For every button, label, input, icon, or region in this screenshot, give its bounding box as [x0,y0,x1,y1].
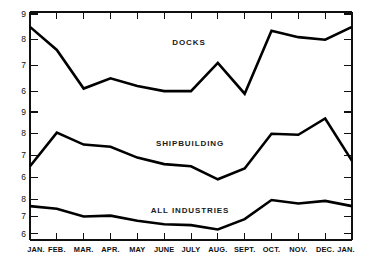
x-tick-label: JAN. [337,245,355,254]
x-tick-label: AUG. [208,245,227,254]
series-line-shipbuilding [30,119,352,180]
x-tick-label: JAN. [27,245,45,254]
series-line-docks [30,27,352,94]
series-label-all-industries: ALL INDUSTRIES [151,206,230,215]
chart-canvas: 98769876876JAN.FEB.MAR.APR.MAYJUNEJULYAU… [0,0,367,272]
y-tick-label: 6 [21,86,26,96]
x-tick-label: DEC. [316,245,334,254]
series-label-docks: DOCKS [172,38,205,47]
y-tick-label: 9 [21,107,26,117]
x-tick-label: OCT. [263,245,281,254]
x-tick-label: APR. [101,245,119,254]
y-tick-label: 8 [21,194,26,204]
y-tick-label: 6 [21,229,26,239]
line-chart-figure: 98769876876JAN.FEB.MAR.APR.MAYJUNEJULYAU… [0,0,367,272]
y-tick-label: 6 [21,172,26,182]
series-group [30,27,352,230]
x-tick-label: FEB. [48,245,66,254]
series-label-shipbuilding: SHIPBUILDING [156,139,224,148]
x-tick-label: SEPT. [234,245,256,254]
y-tick-label: 7 [21,150,26,160]
x-tick-label: JUNE [154,245,175,254]
y-tick-label: 8 [21,128,26,138]
x-tick-label: MAR. [74,245,94,254]
y-tick-label: 7 [21,211,26,221]
x-tick-label: NOV. [289,245,307,254]
y-tick-label: 7 [21,60,26,70]
y-tick-label: 8 [21,34,26,44]
y-tick-label: 9 [21,9,26,19]
x-tick-label: JULY [181,245,200,254]
x-tick-label: MAY [129,245,145,254]
